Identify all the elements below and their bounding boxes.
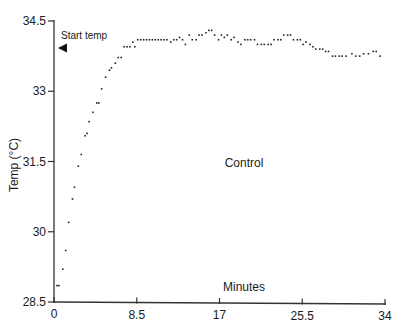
data-point (132, 41, 134, 43)
data-point (117, 57, 119, 59)
data-point (62, 268, 64, 270)
data-point (80, 154, 82, 156)
data-point (146, 39, 148, 41)
data-point (290, 34, 292, 36)
data-point (109, 69, 111, 71)
data-point (173, 39, 175, 41)
x-tick-label: 34 (378, 309, 392, 323)
data-point (338, 55, 340, 57)
data-point (84, 135, 86, 137)
data-point (160, 39, 162, 41)
x-axis-label: Minutes (223, 280, 265, 294)
data-point (157, 39, 159, 41)
data-point (208, 30, 210, 32)
data-point (137, 39, 139, 41)
data-point (120, 57, 122, 59)
data-point (250, 39, 252, 41)
data-point (140, 39, 142, 41)
data-point (205, 32, 207, 34)
data-point (359, 55, 361, 57)
data-point (325, 51, 327, 53)
data-point (101, 88, 103, 90)
data-point (134, 46, 136, 48)
data-point (332, 55, 334, 57)
data-point (189, 34, 191, 36)
data-point (78, 165, 80, 167)
data-point (375, 51, 377, 53)
data-point (214, 34, 216, 36)
data-point (218, 39, 220, 41)
data-point (123, 46, 125, 48)
data-point (263, 44, 265, 46)
data-point (257, 44, 259, 46)
start-temp-label: Start temp (61, 30, 108, 41)
data-point (195, 39, 197, 41)
data-point (280, 39, 282, 41)
data-point (176, 39, 178, 41)
x-tick-label: 0 (51, 307, 58, 321)
series-label-control: Control (225, 156, 264, 170)
data-point (315, 48, 317, 50)
x-tick-label: 8.5 (128, 308, 145, 322)
data-point (143, 39, 145, 41)
data-point (152, 39, 154, 41)
data-point (373, 51, 375, 53)
data-point (247, 39, 249, 41)
data-point (300, 39, 302, 41)
data-point (267, 44, 269, 46)
data-point (111, 67, 113, 69)
data-point (154, 39, 156, 41)
data-points (56, 30, 381, 287)
data-point (363, 53, 365, 55)
data-point (129, 46, 131, 48)
data-point (166, 39, 168, 41)
data-point (224, 37, 226, 39)
data-point (345, 55, 347, 57)
data-point (351, 53, 353, 55)
data-point (115, 62, 117, 64)
data-point (230, 39, 232, 41)
data-point (74, 186, 76, 188)
data-point (226, 34, 228, 36)
data-point (163, 39, 165, 41)
y-tick-label: 28.5 (23, 295, 47, 309)
data-point (92, 112, 94, 114)
data-point (368, 53, 370, 55)
data-point (105, 76, 107, 78)
x-axis-ticks: 08.51725.534 (51, 297, 392, 323)
data-point (86, 133, 88, 135)
data-point (312, 46, 314, 48)
data-point (305, 41, 307, 43)
y-tick-label: 33 (33, 84, 47, 98)
data-point (240, 44, 242, 46)
data-point (88, 121, 90, 123)
data-point (221, 34, 223, 36)
data-point (302, 44, 304, 46)
data-point (149, 39, 151, 41)
y-tick-label: 30 (33, 225, 47, 239)
data-point (126, 46, 128, 48)
temperature-chart: 28.53031.53334.5 08.51725.534 Temp (°C) … (0, 0, 406, 336)
data-point (328, 51, 330, 53)
data-point (270, 44, 272, 46)
data-point (297, 39, 299, 41)
data-point (309, 44, 311, 46)
data-point (233, 37, 235, 39)
data-point (277, 39, 279, 41)
data-point (335, 55, 337, 57)
data-point (58, 285, 60, 287)
y-tick-label: 34.5 (23, 14, 47, 28)
data-point (341, 55, 343, 57)
data-point (182, 39, 184, 41)
data-point (191, 39, 193, 41)
data-point (56, 285, 58, 287)
y-tick-label: 31.5 (23, 155, 47, 169)
data-point (283, 34, 285, 36)
data-point (170, 41, 172, 43)
data-point (287, 34, 289, 36)
x-tick-label: 17 (213, 308, 227, 322)
start-temp-marker-icon (58, 44, 67, 53)
data-point (319, 48, 321, 50)
data-point (273, 39, 275, 41)
data-point (293, 39, 295, 41)
